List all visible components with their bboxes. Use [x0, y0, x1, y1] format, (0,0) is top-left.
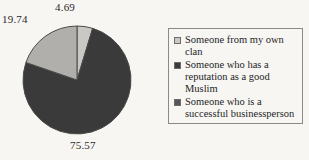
legend-item-label: Someone who has a reputation as a good M… — [185, 59, 298, 95]
pie-slices — [23, 26, 131, 134]
legend-swatch-icon — [174, 62, 181, 69]
legend-swatch-icon — [174, 37, 181, 44]
legend-swatch-icon — [174, 99, 181, 106]
legend-item-good-muslim: Someone who has a reputation as a good M… — [174, 59, 298, 95]
legend-item-label: Someone who is a successful businesspers… — [185, 96, 298, 120]
legend-item-businessperson: Someone who is a successful businesspers… — [174, 96, 298, 120]
legend-item-own-clan: Someone from my own clan — [174, 34, 298, 58]
pie-data-label-own-clan: 4.69 — [55, 1, 75, 13]
pie-data-label-good-muslim: 75.57 — [70, 139, 96, 151]
pie-chart-figure: 4.69 19.74 75.57 Someone from my own cla… — [0, 0, 309, 160]
legend-item-label: Someone from my own clan — [185, 34, 298, 58]
pie-chart-area: 4.69 19.74 75.57 — [0, 0, 160, 160]
legend: Someone from my own clan Someone who has… — [168, 28, 303, 124]
pie-data-label-businessperson: 19.74 — [2, 13, 28, 25]
